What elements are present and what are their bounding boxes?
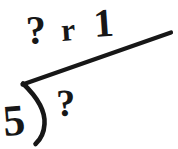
remainder-label: r — [60, 13, 76, 46]
dividend-unknown-digit: ? — [56, 83, 76, 122]
long-division-problem-image: ? r 1 5 ? — [0, 0, 178, 149]
quotient-unknown-digit: ? — [25, 10, 47, 51]
divisor-digit: 5 — [1, 98, 27, 144]
remainder-value: 1 — [92, 3, 115, 44]
